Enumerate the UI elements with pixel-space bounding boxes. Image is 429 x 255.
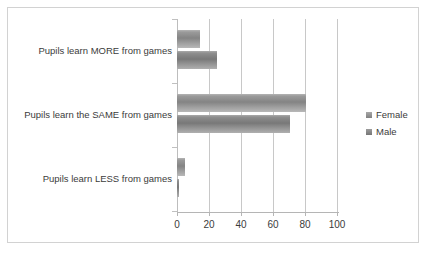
xtick-mark-60 (273, 212, 274, 216)
xtick-mark-100 (337, 212, 338, 216)
bar-group-same (177, 91, 338, 149)
xtick-label-80: 80 (299, 219, 310, 230)
xtick-label-20: 20 (203, 219, 214, 230)
xtick-mark-0 (177, 212, 178, 216)
legend-item-male[interactable]: Male (366, 123, 408, 140)
bar-male-more (177, 51, 217, 69)
chart-legend: Female Male (366, 106, 408, 140)
xtick-mark-80 (305, 212, 306, 216)
bar-female-less (177, 158, 185, 176)
legend-label-male: Male (376, 126, 397, 137)
xtick-label-100: 100 (329, 219, 346, 230)
plot-area (177, 19, 338, 212)
y-axis-labels: Pupils learn MORE from games Pupils lear… (0, 19, 177, 212)
category-label-less: Pupils learn LESS from games (5, 173, 177, 184)
xtick-label-0: 0 (174, 219, 180, 230)
bar-group-more (177, 27, 338, 85)
legend-item-female[interactable]: Female (366, 106, 408, 123)
xtick-mark-20 (209, 212, 210, 216)
legend-swatch-icon-male (366, 129, 372, 135)
bar-female-same (177, 94, 306, 112)
xtick-mark-40 (241, 212, 242, 216)
x-axis-line (177, 212, 339, 213)
bar-male-less (177, 179, 179, 197)
bar-female-more (177, 30, 200, 48)
category-label-more: Pupils learn MORE from games (5, 45, 177, 56)
legend-swatch-icon-female (366, 112, 372, 118)
bar-male-same (177, 115, 290, 133)
xtick-label-40: 40 (235, 219, 246, 230)
legend-label-female: Female (376, 109, 408, 120)
bar-group-less (177, 155, 338, 213)
chart-container: Pupils learn MORE from games Pupils lear… (0, 0, 429, 255)
xtick-label-60: 60 (267, 219, 278, 230)
category-label-same: Pupils learn the SAME from games (5, 109, 177, 120)
